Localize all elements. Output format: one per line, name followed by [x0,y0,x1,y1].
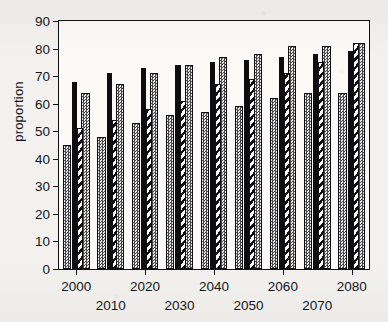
bar [235,106,243,269]
y-axis-tick-label: 40 [35,151,50,166]
y-axis-tick-label: 30 [35,179,50,194]
x-axis-tick [76,269,77,275]
y-axis-label: proportion [11,62,26,162]
x-axis-tick [283,269,284,275]
y-axis-tick-label: 50 [35,124,50,139]
y-axis-tick-label: 10 [35,234,50,249]
bar [249,79,255,269]
y-axis-tick [53,76,59,77]
bar [304,93,312,269]
y-axis-tick-label: 20 [35,206,50,221]
bar [146,109,152,269]
x-axis-tick-label: 2050 [233,298,263,313]
bar [353,43,359,269]
x-axis-tick-label: 2030 [165,298,195,313]
y-axis-tick [53,131,59,132]
y-axis-tick [53,21,59,22]
x-axis-tick-label: 2070 [302,298,332,313]
bar [63,145,71,269]
x-axis-tick-label: 2040 [199,279,229,294]
x-axis-tick [214,269,215,275]
y-axis-tick [53,49,59,50]
x-axis-tick-label: 2080 [337,279,367,294]
y-axis-tick-label: 90 [35,14,50,29]
y-axis-tick [53,186,59,187]
bar [284,73,290,269]
y-axis-tick-label: 80 [35,41,50,56]
y-axis-tick [53,241,59,242]
x-axis-tick-label: 2020 [130,279,160,294]
bar [97,137,105,269]
plot-area: 0102030405060708090 20002010202020302040… [58,20,370,270]
x-axis-tick-label: 2000 [61,279,91,294]
bar [215,84,221,269]
bar [180,101,186,269]
bar [77,128,83,269]
bar [338,93,346,269]
bar [318,62,324,269]
y-axis-tick [53,159,59,160]
bar [132,123,140,269]
bar [201,112,209,269]
bar-chart-figure: proportion 0102030405060708090 200020102… [0,0,388,322]
x-axis-tick-label: 2010 [96,298,126,313]
bar [270,98,278,269]
y-axis-tick-label: 60 [35,96,50,111]
y-axis-tick-label: 0 [42,262,50,277]
y-axis-tick [53,104,59,105]
x-axis-tick [145,269,146,275]
y-axis-tick [53,214,59,215]
bar [166,115,174,269]
x-axis-tick-label: 2060 [268,279,298,294]
x-axis-tick [352,269,353,275]
y-axis-tick [53,269,59,270]
y-axis-tick-label: 70 [35,69,50,84]
bar [112,120,118,269]
